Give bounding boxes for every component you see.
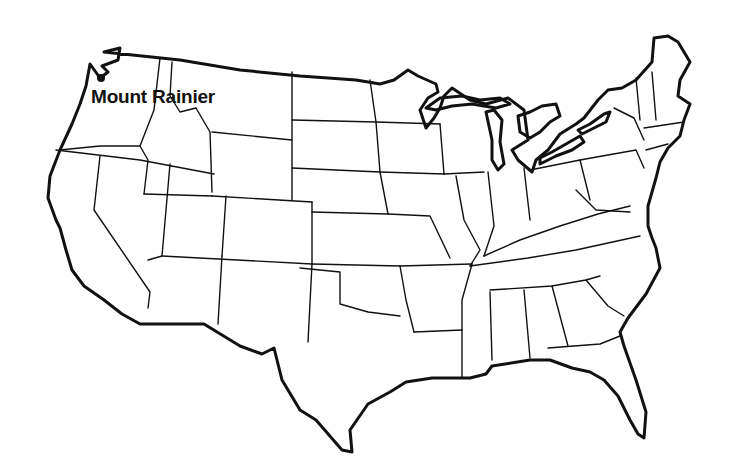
lake-ontario [578,112,610,134]
map-canvas: Mount Rainier [0,0,746,476]
mount-rainier-marker-icon [97,74,105,82]
lake-michigan [486,110,504,170]
mount-rainier-label: Mount Rainier [91,86,215,108]
lake-superior [426,96,510,110]
us-outline-map [0,0,746,476]
